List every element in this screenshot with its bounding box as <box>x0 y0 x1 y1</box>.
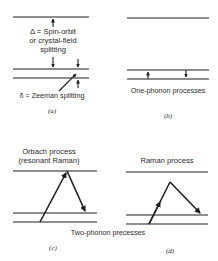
one-phonon-label: One-phonon processes <box>131 86 206 95</box>
energy-level-diagram: Δ = Spin-orbit or crystal-field splittin… <box>0 0 218 261</box>
caption-c: (c) <box>49 244 57 252</box>
phonon-emission-arrow-icon <box>67 171 85 211</box>
panel-b: One-phonon processes (b) <box>127 18 209 120</box>
phonon-absorption-arrow-icon <box>40 173 66 222</box>
panel-a: Δ = Spin-orbit or crystal-field splittin… <box>13 17 89 115</box>
delta-label-line3: splitting <box>40 45 66 54</box>
delta-label-line1: Δ = Spin-orbit <box>30 27 77 36</box>
caption-b: (b) <box>164 112 173 120</box>
caption-a: (a) <box>48 107 57 115</box>
delta-label-line2: or crystal-field <box>29 36 76 45</box>
raman-title: Raman process <box>140 156 193 165</box>
orbach-title-line2: (resonant Raman) <box>18 156 80 165</box>
phonon-emission-arrow-icon <box>170 182 200 213</box>
panel-d: Raman process (d) <box>126 156 208 255</box>
phonon-absorption-arrow-icon <box>149 202 160 224</box>
zeeman-pointer-icon <box>59 74 76 91</box>
orbach-title-line1: Orbach process <box>22 147 76 156</box>
zeeman-label: δ = Zeeman splitting <box>20 91 85 100</box>
two-phonon-label: Two-phonon precesses <box>71 228 146 237</box>
caption-d: (d) <box>166 247 175 255</box>
